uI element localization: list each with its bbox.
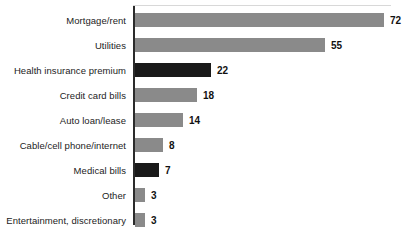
category-label: Medical bills [0, 158, 126, 183]
category-label: Utilities [0, 33, 126, 58]
bar-row: Medical bills7 [0, 158, 408, 183]
bar [135, 213, 145, 227]
bar-value-label: 3 [151, 183, 157, 208]
bar-value-label: 22 [217, 58, 228, 83]
bar-value-label: 8 [169, 133, 175, 158]
bar [135, 13, 384, 27]
bar [135, 188, 145, 202]
bar [135, 38, 325, 52]
category-label: Other [0, 183, 126, 208]
bar-row: Credit card bills18 [0, 83, 408, 108]
bar-row: Mortgage/rent72 [0, 8, 408, 33]
bar-row: Cable/cell phone/internet8 [0, 133, 408, 158]
bar-row: Health insurance premium22 [0, 58, 408, 83]
bar [135, 163, 159, 177]
bar [135, 63, 211, 77]
category-label: Mortgage/rent [0, 8, 126, 33]
bar-value-label: 7 [165, 158, 171, 183]
bar-value-label: 14 [189, 108, 200, 133]
plot-top-rule [133, 5, 391, 6]
category-label: Health insurance premium [0, 58, 126, 83]
bar [135, 88, 197, 102]
bar-chart: Mortgage/rent72Utilities55Health insuran… [0, 0, 408, 233]
bar-value-label: 55 [331, 33, 342, 58]
bar-row: Entertainment, discretionary3 [0, 208, 408, 233]
bar-row: Auto loan/lease14 [0, 108, 408, 133]
bar-value-label: 3 [151, 208, 157, 233]
bar-row: Other3 [0, 183, 408, 208]
category-label: Cable/cell phone/internet [0, 133, 126, 158]
bar [135, 113, 183, 127]
category-label: Credit card bills [0, 83, 126, 108]
category-label: Entertainment, discretionary [0, 208, 126, 233]
bar-value-label: 18 [203, 83, 214, 108]
bar [135, 138, 163, 152]
category-label: Auto loan/lease [0, 108, 126, 133]
bar-row: Utilities55 [0, 33, 408, 58]
bar-value-label: 72 [390, 8, 401, 33]
